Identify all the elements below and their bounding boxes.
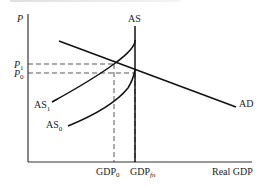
as0-label: AS0 bbox=[46, 119, 63, 133]
y-axis-label: P bbox=[16, 13, 23, 24]
ad-label: AD bbox=[239, 98, 253, 109]
ad-curve bbox=[59, 41, 236, 107]
as-ad-diagram: P AS AD AS1 AS0 P1 P0 GDP0 GDPfn Real GD… bbox=[0, 0, 270, 187]
x-axis-label: Real GDP bbox=[212, 166, 253, 177]
as-label: AS bbox=[128, 13, 141, 24]
gdpfn-tick-label: GDPfn bbox=[130, 166, 156, 179]
as0-curve bbox=[68, 70, 135, 126]
gdp0-tick-label: GDP0 bbox=[96, 166, 120, 179]
as1-label: AS1 bbox=[34, 99, 51, 113]
as1-leader bbox=[52, 99, 58, 102]
as1-curve bbox=[52, 40, 135, 102]
